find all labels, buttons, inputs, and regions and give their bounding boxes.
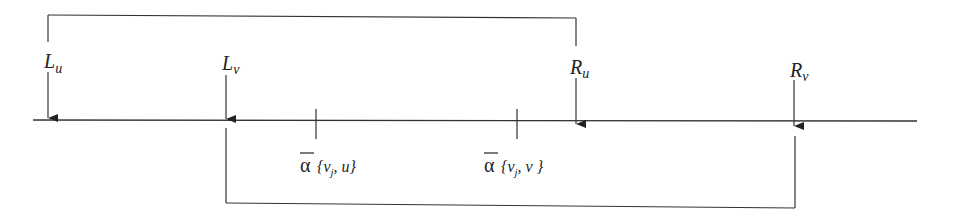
interval-u-bracket — [48, 15, 576, 46]
label-Lu: Lu — [43, 50, 62, 76]
svg-text:α: α — [484, 154, 495, 176]
label-alpha-vj-u: α {vj, u} — [300, 153, 357, 178]
svg-text:{vj, u}: {vj, u} — [317, 158, 357, 178]
label-Ru: Ru — [569, 56, 589, 81]
label-Rv: Rv — [789, 59, 809, 84]
label-alpha-vj-v: α {vj, v } — [484, 153, 544, 178]
main-axis-line — [33, 120, 917, 121]
interval-diagram: Lu Lv Ru Rv α {vj, u} α {vj, v } — [0, 0, 953, 218]
label-Lv: Lv — [221, 52, 240, 77]
svg-text:α: α — [300, 154, 311, 176]
svg-text:{vj, v }: {vj, v } — [501, 158, 544, 178]
